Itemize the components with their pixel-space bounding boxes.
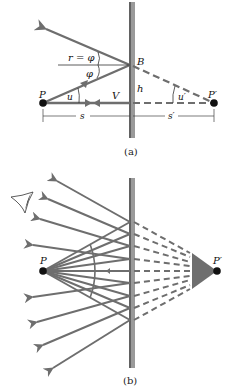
axis-arrow-left-icon [93,99,100,107]
label-s: s [80,111,85,121]
axis-arrow-right-icon [85,99,92,107]
central-ray-arrow-icon [106,268,110,274]
diagram-b: P P′ (b) [11,178,223,386]
image-point-p-prime-b [213,267,221,275]
plane-mirror-reflection-diagram: P P′ B V h r = φ φ u u′ s s′ (a) [0,0,237,390]
label-h: h [137,83,143,94]
ray-fan [33,181,130,368]
label-p-prime: P′ [207,89,218,100]
angle-u-prime-arc [173,86,175,103]
label-b: B [136,56,144,67]
label-r-equals-phi: r = φ [68,52,95,63]
label-p-prime-b: P′ [212,255,223,266]
diagram-a: P P′ B V h r = φ φ u u′ s s′ (a) [38,2,218,157]
label-p: P [38,89,46,100]
virtual-ray-fan [134,222,190,320]
image-point-p-prime [210,99,218,107]
object-point-p-b [39,267,47,275]
object-point-p [39,99,47,107]
label-v: V [112,90,121,101]
label-phi: φ [86,68,93,79]
caption-a: (a) [124,146,138,157]
label-p-b: P [39,255,47,266]
angle-phi-arc [97,65,99,78]
label-s-prime: s′ [168,111,175,121]
angle-u-arc [78,88,79,103]
virtual-ray-extension [133,66,214,103]
caption-b: (b) [123,375,137,386]
label-u: u [67,92,73,102]
label-u-prime: u′ [178,92,186,102]
angle-r-arc [98,52,100,65]
eye-icon [11,192,33,213]
